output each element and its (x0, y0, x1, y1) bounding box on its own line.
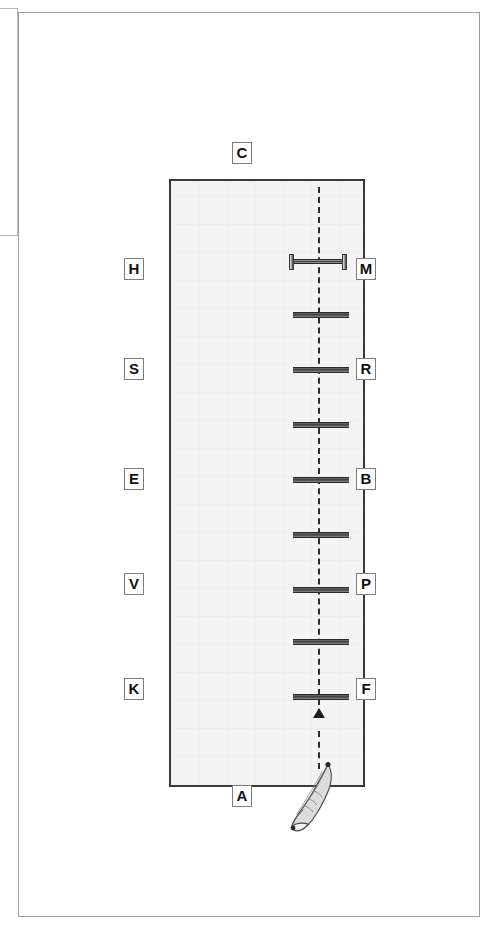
foot-illustration (283, 761, 343, 833)
rung-5[interactable] (293, 477, 349, 483)
rung-1-cap-right (342, 254, 347, 270)
zone-label-left-h[interactable]: H (124, 258, 144, 280)
rung-4[interactable] (293, 422, 349, 428)
drill-field (169, 179, 365, 787)
zone-label-left-k[interactable]: K (124, 678, 144, 700)
zone-label-bottom[interactable]: A (232, 785, 252, 807)
travel-direction-arrow (313, 708, 325, 718)
rung-7[interactable] (293, 587, 349, 593)
rung-6[interactable] (293, 532, 349, 538)
page-frame: C (18, 12, 480, 917)
rung-1-cap-left (289, 254, 294, 270)
rung-1[interactable] (293, 259, 345, 264)
rung-9[interactable] (293, 694, 349, 700)
centre-line-upper (318, 187, 320, 715)
zone-label-top[interactable]: C (232, 142, 252, 164)
rung-8[interactable] (293, 639, 349, 645)
zone-label-right-f[interactable]: F (356, 678, 376, 700)
zone-label-right-r[interactable]: R (356, 358, 376, 380)
rung-3[interactable] (293, 367, 349, 373)
zone-label-right-m[interactable]: M (356, 258, 376, 280)
zone-label-right-b[interactable]: B (356, 468, 376, 490)
clipped-adjacent-panel (0, 8, 18, 236)
zone-label-left-s[interactable]: S (124, 358, 144, 380)
rung-2[interactable] (293, 312, 349, 318)
zone-label-left-v[interactable]: V (124, 573, 144, 595)
foot-heel-dot (325, 762, 330, 767)
zone-label-left-e[interactable]: E (124, 468, 144, 490)
foot-toe-dot (291, 826, 296, 831)
zone-label-right-p[interactable]: P (356, 573, 376, 595)
